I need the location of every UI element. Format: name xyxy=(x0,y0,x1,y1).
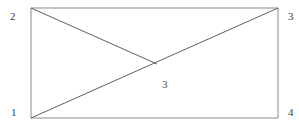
vertex-label-top-left: 2 xyxy=(10,11,16,22)
vertex-label-bottom-right: 4 xyxy=(288,107,294,118)
figure-canvas: 2 1 3 4 3 xyxy=(0,0,299,135)
figure-drawing xyxy=(0,0,299,135)
secondary-segment-line xyxy=(31,8,157,64)
interior-node-label: 3 xyxy=(162,79,168,90)
vertex-label-bottom-left: 1 xyxy=(11,107,17,118)
vertex-label-top-right: 3 xyxy=(288,11,294,22)
